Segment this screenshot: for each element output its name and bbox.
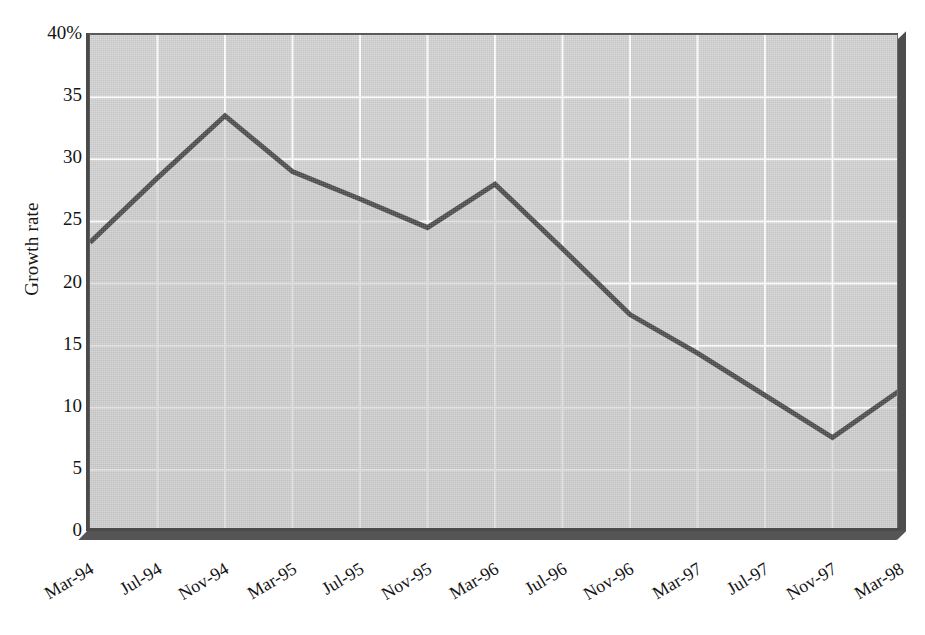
x-axis-tick-label: Nov-97	[741, 559, 839, 628]
y-axis-tick-labels: 0510152025303540%	[30, 0, 82, 635]
plot-area	[88, 33, 898, 530]
plot-svg	[90, 35, 898, 530]
y-axis-tick-label: 20	[36, 272, 82, 291]
x-axis-tick-label: Jul-97	[673, 559, 771, 628]
plot-3d-right-shadow	[897, 31, 906, 540]
x-axis-tick-label: Mar-97	[606, 559, 704, 628]
y-axis-tick-label: 10	[36, 396, 82, 415]
y-axis-tick-label: 25	[36, 209, 82, 228]
x-axis-tick-label: Jul-96	[471, 559, 569, 628]
x-axis-tick-label: Mar-96	[403, 559, 501, 628]
y-axis-tick-label: 40%	[36, 23, 82, 42]
x-axis-tick-label: Nov-94	[133, 559, 231, 628]
growth-rate-area-chart: Growth rate 0510152025303540% Mar-94Jul-…	[0, 0, 925, 635]
plot-3d-bottom-shadow	[78, 530, 906, 540]
y-axis-tick-label: 15	[36, 334, 82, 353]
x-axis-line	[86, 528, 900, 531]
x-axis-tick-label: Nov-95	[336, 559, 434, 628]
x-axis-tick-label: Mar-95	[201, 559, 299, 628]
x-axis-tick-label: Jul-95	[268, 559, 366, 628]
y-axis-tick-label: 0	[36, 520, 82, 539]
x-axis-tick-label: Mar-98	[808, 559, 906, 628]
y-axis-tick-label: 35	[36, 85, 82, 104]
y-axis-tick-label: 30	[36, 147, 82, 166]
y-axis-tick-label: 5	[36, 458, 82, 477]
x-axis-tick-label: Nov-96	[538, 559, 636, 628]
y-axis-line	[86, 33, 89, 531]
